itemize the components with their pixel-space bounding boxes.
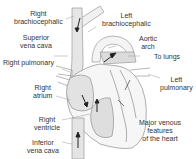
right-atrium xyxy=(66,75,93,111)
label-right-brachiocephalic: Right brachiocephalic xyxy=(14,10,63,26)
label-right-pulmonary: Right pulmonary xyxy=(3,59,54,67)
diagram-caption: Major venous features of the heart xyxy=(139,119,181,143)
label-line: arch xyxy=(139,43,157,51)
label-inferior-vena-cava: Inferior vena cava xyxy=(27,139,59,155)
label-line: Right xyxy=(33,84,52,92)
label-right-atrium: Right atrium xyxy=(33,84,52,100)
label-aortic-arch: Aortic arch xyxy=(139,35,157,51)
label-line: atrium xyxy=(33,92,52,100)
label-line: Right xyxy=(14,10,63,18)
label-line: ventricle xyxy=(34,124,60,132)
caption-line: features xyxy=(139,127,181,135)
superior-vena-cava-vessel xyxy=(70,8,83,78)
pulmonary-trunk xyxy=(100,52,136,64)
label-to-lungs: To lungs xyxy=(154,53,180,61)
label-line: Aortic xyxy=(139,35,157,43)
label-left-pulmonary: Left pulmonary xyxy=(160,76,193,92)
label-line: Left xyxy=(102,12,151,20)
label-right-ventricle: Right ventricle xyxy=(34,116,60,132)
label-line: Right pulmonary xyxy=(3,59,54,67)
label-left-brachiocephalic: Left brachiocephalic xyxy=(102,12,151,28)
label-line: vena cava xyxy=(20,42,52,50)
label-line: vena cava xyxy=(27,147,59,155)
label-line: brachiocephalic xyxy=(102,20,151,28)
label-line: pulmonary xyxy=(160,84,193,92)
caption-line: of the heart xyxy=(139,135,181,143)
label-line: Inferior xyxy=(27,139,59,147)
label-line: To lungs xyxy=(154,53,180,61)
label-superior-vena-cava: Superior vena cava xyxy=(20,34,52,50)
caption-line: Major venous xyxy=(139,119,181,127)
label-line: Left xyxy=(160,76,193,84)
label-line: Right xyxy=(34,116,60,124)
label-line: brachiocephalic xyxy=(14,18,63,26)
label-line: Superior xyxy=(20,34,52,42)
